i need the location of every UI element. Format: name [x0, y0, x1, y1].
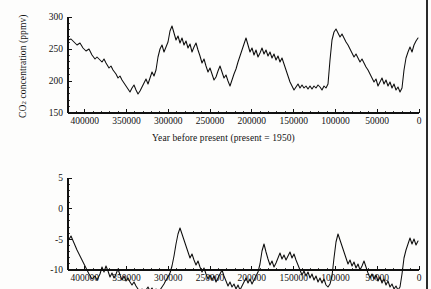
y-tick-label: 200 — [49, 76, 64, 86]
x-tick-label: 100000 — [321, 273, 350, 283]
y-tick-label: 250 — [49, 44, 64, 54]
y-tick-group-temperature: 50-5-10 — [50, 173, 72, 275]
figure-page: CO2 concentration (ppmv) 150200250300 40… — [0, 0, 431, 289]
y-tick-label: 150 — [49, 108, 64, 118]
x-tick-label: 0 — [417, 273, 422, 283]
plot-area-co2: 150200250300 400000350000300000250000200… — [0, 0, 431, 146]
y-tick-label: 0 — [58, 204, 63, 214]
x-tick-label: 100000 — [321, 116, 350, 126]
x-tick-label: 300000 — [154, 273, 183, 283]
x-tick-label: 400000 — [70, 116, 99, 126]
x-tick-label: 50000 — [365, 116, 389, 126]
co2-data-line — [68, 26, 418, 94]
x-tick-label: 0 — [417, 116, 422, 126]
x-axis-label-co2: Year before present (present = 1950) — [8, 133, 431, 143]
x-tick-label: 150000 — [279, 273, 308, 283]
x-tick-label: 300000 — [154, 116, 183, 126]
y-tick-label: -10 — [50, 265, 63, 275]
chart-panel-co2: CO2 concentration (ppmv) 150200250300 40… — [0, 0, 431, 146]
y-tick-label: -5 — [55, 235, 63, 245]
y-tick-label: 5 — [58, 173, 63, 183]
x-tick-label: 250000 — [196, 116, 225, 126]
x-tick-label: 200000 — [238, 273, 267, 283]
x-tick-label: 350000 — [112, 116, 141, 126]
x-tick-label: 200000 — [238, 116, 267, 126]
x-tick-label: 150000 — [279, 116, 308, 126]
y-tick-label: 300 — [49, 12, 64, 22]
x-tick-label: 350000 — [112, 273, 141, 283]
chart-panel-temperature: Temperature change from present (degrees… — [0, 146, 431, 289]
x-tick-label: 400000 — [70, 273, 99, 283]
plot-area-temperature: 50-5-10 40000035000030000025000020000015… — [0, 146, 431, 289]
